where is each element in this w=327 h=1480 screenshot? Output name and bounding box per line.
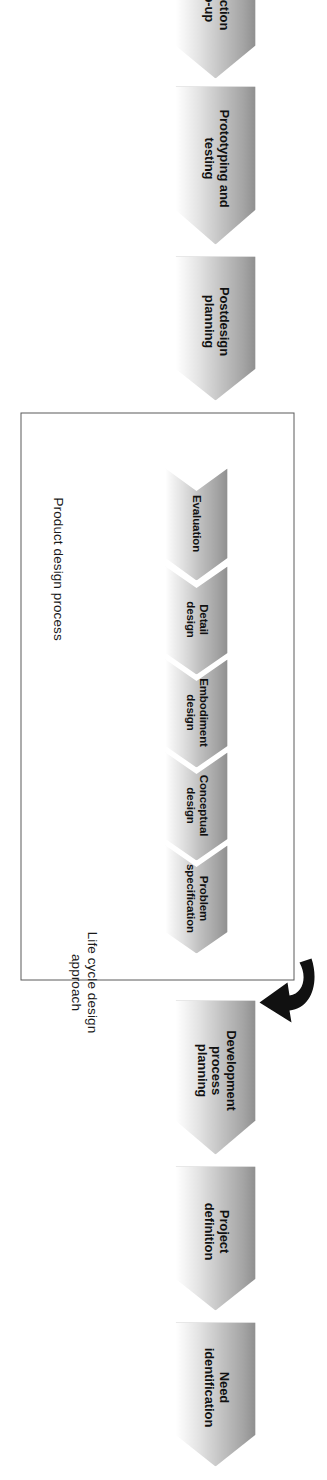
stage-label: Need identification: [175, 1322, 255, 1466]
diagram-canvas: Product design process Life cycle design…: [0, 0, 327, 1480]
inner-stage-chevron-evaluation[interactable]: Evaluation: [165, 468, 227, 580]
life-cycle-design-approach-label: Life cycle design approach: [67, 917, 99, 1047]
stage-chevron-development-process-planning[interactable]: Development process planning: [175, 1000, 255, 1154]
inner-stage-chevron-detail-design[interactable]: Detail design: [165, 566, 227, 674]
stage-chevron-need-identification[interactable]: Need identification: [175, 1322, 255, 1466]
stage-chevron-postdesign-planning[interactable]: Postdesign planning: [175, 256, 255, 400]
inner-stage-label: Problem specification: [165, 845, 227, 953]
inner-stage-label: Conceptual design: [165, 752, 227, 860]
stage-label: Postdesign planning: [175, 256, 255, 400]
product-design-process-label: Product design process: [50, 497, 65, 640]
stage-label: Production ramp-up: [175, 0, 255, 78]
inner-stage-label: Evaluation: [165, 468, 227, 580]
curved-down-arrow-icon: [257, 952, 321, 1026]
stage-label: Development process planning: [175, 1000, 255, 1154]
stage-label: Project definition: [175, 1166, 255, 1310]
rotated-layer: Product design process Life cycle design…: [0, 0, 327, 1480]
inner-stage-label: Detail design: [165, 566, 227, 674]
inner-stage-chevron-conceptual-design[interactable]: Conceptual design: [165, 752, 227, 860]
stage-chevron-production-ramp-up[interactable]: Production ramp-up: [175, 0, 255, 78]
inner-stage-chevron-embodiment-design[interactable]: Embodiment design: [165, 659, 227, 767]
inner-stage-chevron-problem-specification[interactable]: Problem specification: [165, 845, 227, 953]
stage-chevron-prototyping-and-testing[interactable]: Prototyping and testing: [175, 86, 255, 244]
stage-chevron-project-definition[interactable]: Project definition: [175, 1166, 255, 1310]
stage-label: Prototyping and testing: [175, 86, 255, 244]
inner-stage-label: Embodiment design: [165, 659, 227, 767]
